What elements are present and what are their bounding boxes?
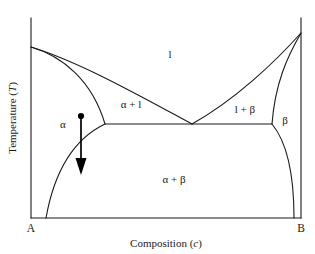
region-label-alpha: α: [60, 118, 66, 130]
y-axis-title-main: Temperature: [6, 98, 18, 154]
solidus-beta-curve: [272, 33, 301, 124]
y-axis-title: Temperature (T): [6, 82, 19, 154]
region-label-alpha-plus-liquid: α + l: [121, 98, 142, 110]
y-axis-title-close-paren: ): [6, 82, 19, 86]
region-label-beta: β: [282, 114, 288, 126]
endpoint-label-a: A: [27, 222, 36, 234]
solidus-alpha-curve: [31, 47, 105, 124]
x-axis-title-close-paren: ): [198, 237, 202, 250]
x-axis-title-main: Composition: [130, 237, 187, 249]
solvus-alpha-curve: [46, 124, 105, 218]
x-axis-title: Composition (c): [130, 237, 202, 250]
phase-diagram-canvas: l α α + l l + β β α + β A B Composition …: [0, 0, 315, 254]
cooling-path-arrowhead: [76, 158, 87, 175]
phase-diagram-figure: l α α + l l + β β α + β A B Composition …: [0, 0, 315, 254]
endpoint-label-b: B: [297, 222, 305, 234]
region-label-liquid: l: [168, 48, 171, 60]
region-label-alpha-plus-beta: α + β: [162, 173, 185, 185]
region-label-liquid-plus-beta: l + β: [235, 103, 256, 115]
solvus-beta-curve: [272, 124, 294, 218]
